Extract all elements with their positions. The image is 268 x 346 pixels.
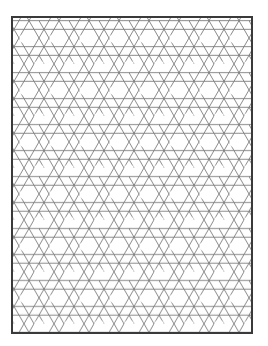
weave-pattern	[13, 18, 251, 332]
pattern-frame	[11, 16, 253, 334]
pattern-openings	[13, 18, 251, 332]
